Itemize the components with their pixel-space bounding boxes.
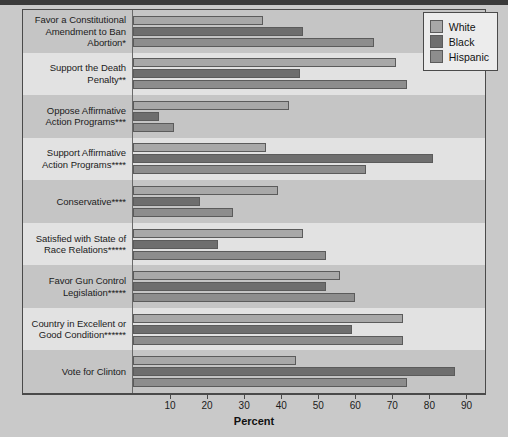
- legend-item-black: Black: [430, 35, 489, 48]
- bar-white: [133, 314, 403, 323]
- category-row: Oppose Affirmative Action Programs***: [23, 95, 485, 138]
- bar-hispanic: [133, 80, 407, 89]
- bar-black: [133, 282, 326, 291]
- bar-hispanic: [133, 123, 174, 132]
- bar-group: [133, 350, 485, 393]
- top-rule-divider: [0, 0, 508, 5]
- category-row: Favor Gun Control Legislation*****: [23, 265, 485, 308]
- legend-swatch-white-icon: [430, 20, 443, 33]
- bar-rect: [133, 271, 340, 280]
- bar-black: [133, 325, 352, 334]
- bar-black: [133, 112, 159, 121]
- bar-rect: [133, 378, 407, 387]
- bar-white: [133, 143, 266, 152]
- x-axis-tick: [170, 394, 171, 399]
- category-label: Satisfied with State of Race Relations**…: [23, 223, 133, 266]
- bar-rect: [133, 208, 233, 217]
- bar-rect: [133, 58, 396, 67]
- legend-label-white: White: [449, 21, 476, 33]
- bar-rect: [133, 38, 374, 47]
- bar-white: [133, 186, 278, 195]
- x-axis-tick-label: 70: [387, 400, 398, 411]
- bar-rect: [133, 123, 174, 132]
- bar-hispanic: [133, 293, 355, 302]
- bar-rect: [133, 325, 352, 334]
- x-axis-tick: [318, 394, 319, 399]
- plot-frame: Favor a Constitutional Amendment to Ban …: [22, 9, 486, 394]
- bar-group: [133, 138, 485, 181]
- bar-hispanic: [133, 251, 326, 260]
- legend-swatch-hispanic-icon: [430, 50, 443, 63]
- bar-rect: [133, 240, 218, 249]
- legend-label-hispanic: Hispanic: [449, 51, 489, 63]
- bar-black: [133, 69, 300, 78]
- bar-hispanic: [133, 165, 366, 174]
- bar-rect: [133, 282, 326, 291]
- bar-black: [133, 197, 200, 206]
- bar-white: [133, 16, 263, 25]
- legend-item-hispanic: Hispanic: [430, 50, 489, 63]
- legend-swatch-black-icon: [430, 35, 443, 48]
- bar-hispanic: [133, 378, 407, 387]
- x-axis-tick-label: 30: [239, 400, 250, 411]
- category-row: Support the Death Penalty**: [23, 53, 485, 96]
- grouped-bar-chart: Favor a Constitutional Amendment to Ban …: [0, 0, 508, 437]
- legend-item-white: White: [430, 20, 489, 33]
- category-label: Country in Excellent or Good Condition**…: [23, 308, 133, 351]
- bar-rect: [133, 80, 407, 89]
- bar-rect: [133, 251, 326, 260]
- bar-rect: [133, 356, 296, 365]
- bar-rect: [133, 197, 200, 206]
- bar-rect: [133, 27, 303, 36]
- bar-rect: [133, 112, 159, 121]
- category-label: Favor a Constitutional Amendment to Ban …: [23, 10, 133, 53]
- x-axis-tick-label: 10: [164, 400, 175, 411]
- x-axis-tick: [392, 394, 393, 399]
- category-row: Country in Excellent or Good Condition**…: [23, 308, 485, 351]
- x-axis-tick-label: 60: [350, 400, 361, 411]
- bar-white: [133, 271, 340, 280]
- category-row: Support Affirmative Action Programs****: [23, 138, 485, 181]
- bar-hispanic: [133, 208, 233, 217]
- x-axis-tick: [429, 394, 430, 399]
- bar-white: [133, 58, 396, 67]
- bar-rect: [133, 16, 263, 25]
- bar-black: [133, 240, 218, 249]
- category-label: Conservative****: [23, 180, 133, 223]
- x-axis-tick-label: 90: [461, 400, 472, 411]
- bar-white: [133, 101, 289, 110]
- x-axis-tick-label: 80: [424, 400, 435, 411]
- category-label: Support Affirmative Action Programs****: [23, 138, 133, 181]
- x-axis-tick: [244, 394, 245, 399]
- x-axis-tick: [355, 394, 356, 399]
- category-label: Vote for Clinton: [23, 350, 133, 393]
- bar-white: [133, 229, 303, 238]
- bar-rect: [133, 101, 289, 110]
- category-label: Oppose Affirmative Action Programs***: [23, 95, 133, 138]
- x-axis-tick-label: 40: [276, 400, 287, 411]
- category-row: Satisfied with State of Race Relations**…: [23, 223, 485, 266]
- x-axis-tick: [466, 394, 467, 399]
- x-axis-title: Percent: [22, 415, 486, 427]
- x-axis-tick: [281, 394, 282, 399]
- bar-group: [133, 95, 485, 138]
- x-axis-tick-label: 20: [202, 400, 213, 411]
- bar-black: [133, 367, 455, 376]
- bar-group: [133, 180, 485, 223]
- bar-hispanic: [133, 38, 374, 47]
- category-row: Favor a Constitutional Amendment to Ban …: [23, 10, 485, 53]
- legend-label-black: Black: [449, 36, 475, 48]
- bar-hispanic: [133, 336, 403, 345]
- bar-rect: [133, 154, 433, 163]
- bar-rect: [133, 314, 403, 323]
- bar-rect: [133, 69, 300, 78]
- x-axis-line: [22, 394, 486, 395]
- bar-rect: [133, 186, 278, 195]
- legend: White Black Hispanic: [423, 12, 498, 71]
- bar-group: [133, 308, 485, 351]
- bar-rect: [133, 293, 355, 302]
- x-axis-tick: [207, 394, 208, 399]
- bar-group: [133, 265, 485, 308]
- category-label: Favor Gun Control Legislation*****: [23, 265, 133, 308]
- bar-rect: [133, 143, 266, 152]
